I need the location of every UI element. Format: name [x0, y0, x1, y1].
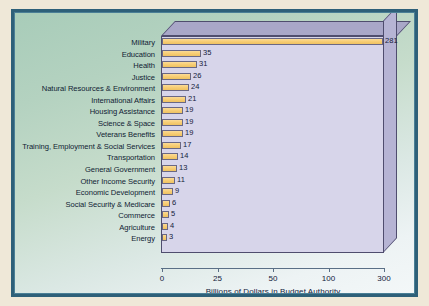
bar-row: 9 [162, 187, 384, 199]
bar-value-label: 24 [191, 82, 200, 92]
bar-row: 21 [162, 95, 384, 107]
bar-row: 19 [162, 129, 384, 141]
bar [162, 107, 183, 114]
bar-row: 17 [162, 141, 384, 153]
bar [162, 96, 186, 103]
x-axis-tick-label: 25 [213, 274, 222, 283]
category-label: General Government [15, 164, 158, 176]
category-label: Commerce [15, 210, 158, 222]
category-label: Agriculture [15, 222, 158, 234]
bar-value-label: 281 [385, 36, 398, 46]
bar-value-label: 19 [185, 105, 194, 115]
category-label: Science & Space [15, 118, 158, 130]
bar [162, 50, 201, 57]
bar-value-label: 9 [175, 186, 179, 196]
bar-row: 5 [162, 210, 384, 222]
category-label: Health [15, 60, 158, 72]
bar-row: 35 [162, 49, 384, 61]
bar [162, 153, 178, 160]
x-axis-tick [273, 268, 274, 272]
bar [162, 38, 383, 45]
bar [162, 142, 181, 149]
bar [162, 223, 168, 230]
bar-value-label: 19 [185, 117, 194, 127]
category-label: Military [15, 37, 158, 49]
x-axis-tick [329, 268, 330, 272]
x-axis-title: Billions of Dollars in Budget Authority [161, 287, 385, 294]
x-axis-tick-label: 300 [377, 274, 390, 283]
bar-value-label: 19 [185, 128, 194, 138]
category-label: Transportation [15, 152, 158, 164]
bar-value-label: 3 [169, 232, 173, 242]
category-label: International Affairs [15, 95, 158, 107]
bar-value-label: 14 [180, 151, 189, 161]
category-label: Justice [15, 72, 158, 84]
category-axis-labels: MilitaryEducationHealthJusticeNatural Re… [15, 37, 158, 245]
figure-container: MilitaryEducationHealthJusticeNatural Re… [0, 0, 429, 306]
bar [162, 188, 173, 195]
bar-value-label: 31 [199, 59, 208, 69]
bar-row: 281 [162, 37, 384, 49]
plot-3d-side-face [383, 12, 397, 253]
x-axis-line: 02550100300 [161, 268, 385, 269]
bar [162, 119, 183, 126]
x-axis-tick-label: 50 [269, 274, 278, 283]
bar-row: 3 [162, 233, 384, 245]
bar [162, 84, 189, 91]
bar [162, 177, 175, 184]
bar-value-label: 26 [193, 71, 202, 81]
x-axis-tick-label: 100 [322, 274, 335, 283]
bar-value-label: 11 [177, 175, 185, 185]
bar [162, 130, 183, 137]
category-label: Veterans Benefits [15, 129, 158, 141]
category-label: Economic Development [15, 187, 158, 199]
bar-series: 28135312624211919191714131196543 [162, 37, 384, 245]
bar-value-label: 4 [170, 221, 174, 231]
x-axis-tick [218, 268, 219, 272]
bar-row: 13 [162, 164, 384, 176]
bar-value-label: 5 [171, 209, 175, 219]
category-label: Education [15, 49, 158, 61]
bar-row: 14 [162, 152, 384, 164]
bar-value-label: 21 [188, 94, 197, 104]
bar [162, 234, 167, 241]
category-label: Housing Assistance [15, 106, 158, 118]
bar-value-label: 17 [183, 140, 192, 150]
chart-frame-border: MilitaryEducationHealthJusticeNatural Re… [11, 9, 418, 297]
bar-value-label: 6 [172, 198, 176, 208]
bar [162, 211, 169, 218]
category-label: Social Security & Medicare [15, 199, 158, 211]
chart-canvas: MilitaryEducationHealthJusticeNatural Re… [14, 12, 415, 294]
bar-value-label: 35 [203, 48, 212, 58]
category-label: Energy [15, 233, 158, 245]
x-axis-tick [384, 268, 385, 272]
x-axis-tick-label: 0 [160, 274, 164, 283]
bar [162, 73, 191, 80]
category-label: Training, Employment & Social Services [15, 141, 158, 153]
bar [162, 200, 170, 207]
bar-row: 19 [162, 118, 384, 130]
category-label: Other Income Security [15, 176, 158, 188]
bar-row: 19 [162, 106, 384, 118]
bar-row: 4 [162, 222, 384, 234]
bar-row: 6 [162, 199, 384, 211]
bar [162, 61, 197, 68]
bar-row: 11 [162, 176, 384, 188]
category-label: Natural Resources & Environment [15, 83, 158, 95]
x-axis-tick [162, 268, 163, 272]
bar [162, 165, 177, 172]
plot-3d-top-face [161, 21, 411, 36]
bar-value-label: 13 [179, 163, 188, 173]
